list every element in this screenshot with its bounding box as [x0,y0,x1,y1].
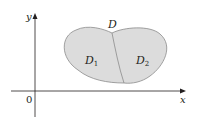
y-axis-label: y [25,11,32,22]
origin-label: 0 [26,94,32,105]
region-d [64,27,167,83]
region-diagram: y x 0 D D1 D2 [0,0,202,126]
x-axis-arrow-icon [180,89,186,94]
x-axis-label: x [180,94,186,105]
region-label-d: D [107,18,117,31]
y-axis-arrow-icon [33,13,38,19]
